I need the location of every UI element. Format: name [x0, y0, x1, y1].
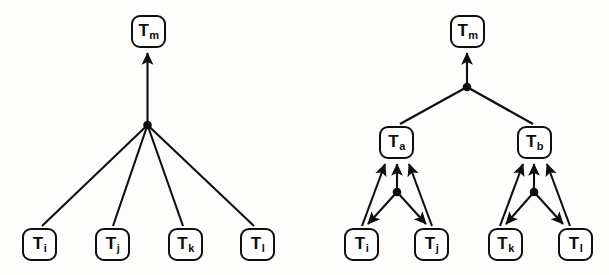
node-right-tl[interactable]: Tl [558, 228, 593, 261]
edge-leftj-to-tl [148, 125, 255, 226]
node-label: Tk [177, 235, 194, 252]
node-left-tm[interactable]: Tm [131, 15, 166, 48]
node-label: Tl [251, 235, 264, 252]
node-left-tj[interactable]: Tj [95, 228, 130, 261]
node-label: Ta [388, 133, 405, 150]
junction-dot-right-top [463, 83, 472, 92]
node-label: Tj [425, 235, 438, 252]
node-left-ti[interactable]: Ti [22, 228, 57, 261]
node-label: Tl [569, 235, 582, 252]
edge-rightj0-to-tb [467, 87, 533, 124]
junction-dot-left [143, 121, 152, 130]
edge-rightj0-to-ta [400, 87, 467, 124]
node-left-tk[interactable]: Tk [168, 228, 203, 261]
edge-tl-to-tb [547, 164, 570, 226]
node-right-tk[interactable]: Tk [488, 228, 523, 261]
node-right-tj[interactable]: Tj [414, 228, 449, 261]
node-right-tb[interactable]: Tb [517, 126, 552, 159]
node-left-tl[interactable]: Tl [240, 228, 275, 261]
node-right-tm[interactable]: Tm [450, 15, 485, 48]
left-diagram-edges [42, 53, 254, 226]
node-label: Tm [457, 22, 477, 39]
node-label: Tm [138, 22, 158, 39]
node-label: Tb [526, 133, 543, 150]
node-label: Ti [33, 235, 46, 252]
node-label: Ti [355, 235, 368, 252]
node-right-ti[interactable]: Ti [344, 228, 379, 261]
node-right-ta[interactable]: Ta [379, 126, 414, 159]
edge-leftj-to-ti [42, 125, 148, 226]
node-label: Tk [497, 235, 514, 252]
junction-dot-right-b [530, 188, 539, 197]
junction-dot-right-a [393, 188, 402, 197]
node-label: Tj [106, 235, 119, 252]
diagram-canvas: Tm Ti Tj Tk Tl Tm Ta Tb Ti Tj Tk Tl [0, 0, 609, 275]
edge-leftj-to-tk [148, 125, 184, 226]
